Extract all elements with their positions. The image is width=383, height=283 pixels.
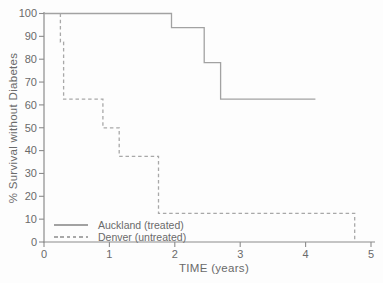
x-tick-label: 3 (237, 248, 243, 260)
y-tick-label: 100 (19, 7, 37, 19)
y-tick-label: 30 (25, 167, 37, 179)
y-tick-label: 60 (25, 99, 37, 111)
x-tick-label: 5 (368, 248, 374, 260)
curve-auckland (44, 14, 315, 100)
y-tick-label: 50 (25, 122, 37, 134)
y-tick-label: 0 (31, 236, 37, 248)
y-axis-title: % Survival without Diabetes (7, 53, 19, 204)
figure-page: 0102030405060708090100012345 % Survival … (0, 0, 383, 283)
dashed-line-sample-icon (54, 236, 88, 238)
x-tick-label: 2 (172, 248, 178, 260)
legend: Auckland (treated) Denver (untreated) (54, 219, 186, 243)
x-axis-title: TIME (years) (179, 262, 249, 274)
solid-line-sample-icon (54, 224, 88, 226)
legend-label-auckland: Auckland (treated) (98, 219, 184, 231)
x-tick-label: 4 (303, 248, 309, 260)
y-tick-label: 40 (25, 144, 37, 156)
y-tick-label: 90 (25, 30, 37, 42)
legend-item-denver: Denver (untreated) (54, 231, 186, 243)
x-tick-label: 1 (106, 248, 112, 260)
x-tick-label: 0 (41, 248, 47, 260)
y-tick-label: 20 (25, 190, 37, 202)
survival-chart: 0102030405060708090100012345 % Survival … (0, 0, 383, 283)
legend-label-denver: Denver (untreated) (98, 231, 186, 243)
legend-item-auckland: Auckland (treated) (54, 219, 186, 231)
curve-denver (60, 14, 354, 243)
y-tick-label: 80 (25, 53, 37, 65)
y-tick-label: 70 (25, 76, 37, 88)
y-tick-label: 10 (25, 213, 37, 225)
